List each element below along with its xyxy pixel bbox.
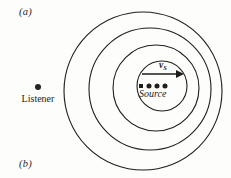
velocity-subscript: S [163, 64, 167, 71]
source-label: Source [139, 88, 166, 99]
doppler-effect-figure: (a) (b) Listener Source vS [0, 0, 231, 178]
velocity-label: vS [159, 60, 167, 71]
panel-label-b: (b) [19, 158, 32, 169]
panel-label-a: (a) [19, 6, 32, 17]
listener-label: Listener [6, 93, 70, 104]
listener-dot [35, 84, 41, 90]
listener-group: Listener [6, 84, 70, 104]
